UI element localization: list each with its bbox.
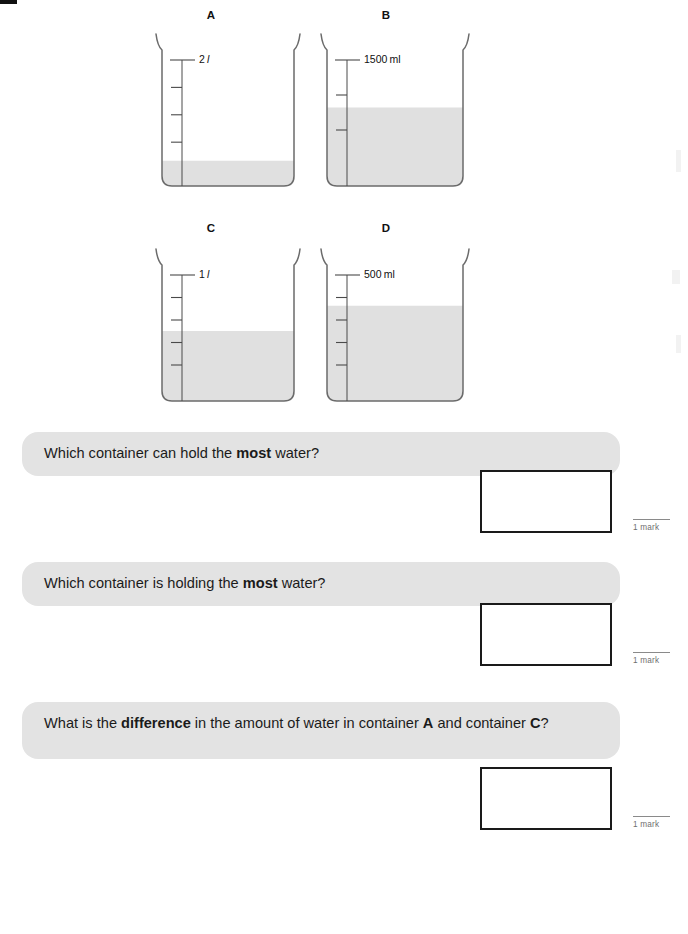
scale-reading-c: 1 l [199,268,209,280]
question-text-fragment: in the amount of water in container [191,715,423,731]
margin-speck-2 [672,270,680,284]
margin-speck-3 [676,335,681,353]
margin-speck-1 [676,150,681,172]
question-text-fragment: C [530,715,541,731]
question-text-fragment: and container [433,715,530,731]
question-text-fragment: Which container is holding the [44,575,243,591]
scale-unit-c: l [207,268,209,280]
mark-rule [633,652,670,653]
question-text-fragment: most [236,445,271,461]
answer-box-2[interactable] [480,603,612,666]
mark-allocation-3: 1 mark [633,816,685,829]
scale-value-c: 1 [199,268,205,280]
scale-reading-a: 2 l [199,53,209,65]
container-d [320,247,470,403]
scale-value-a: 2 [199,53,205,65]
question-text-fragment: water? [278,575,326,591]
scale-unit-d: ml [384,268,395,280]
question-text-fragment: most [243,575,278,591]
scale-unit-a: l [207,53,209,65]
container-label-b: B [371,9,401,21]
worksheet-page: A2 lB1500 mlC1 lD500 ml Which container … [0,0,688,934]
mark-label: 1 mark [633,820,685,829]
answer-box-3[interactable] [480,767,612,830]
question-text-fragment: ? [540,715,548,731]
mark-label: 1 mark [633,656,685,665]
scale-value-b: 1500 [364,53,387,65]
question-text-fragment: Which container can hold the [44,445,236,461]
mark-rule [633,519,670,520]
mark-allocation-2: 1 mark [633,652,685,665]
scale-reading-d: 500 ml [364,268,395,280]
container-label-a: A [196,9,226,21]
container-a [155,32,301,188]
container-label-c: C [196,222,226,234]
scale-reading-b: 1500 ml [364,53,401,65]
scale-unit-b: ml [389,53,400,65]
mark-rule [633,816,670,817]
question-text-fragment: What is the [44,715,121,731]
mark-allocation-1: 1 mark [633,519,685,532]
container-label-d: D [371,222,401,234]
question-text-fragment: difference [121,715,191,731]
mark-label: 1 mark [633,523,685,532]
answer-box-1[interactable] [480,470,612,533]
question-text-fragment: water? [271,445,319,461]
question-banner-2: Which container is holding the most wate… [22,562,620,606]
question-banner-3: What is the difference in the amount of … [22,702,620,759]
corner-print-mark [0,0,17,4]
container-c [155,247,301,403]
question-text-fragment: A [423,715,434,731]
scale-value-d: 500 [364,268,382,280]
